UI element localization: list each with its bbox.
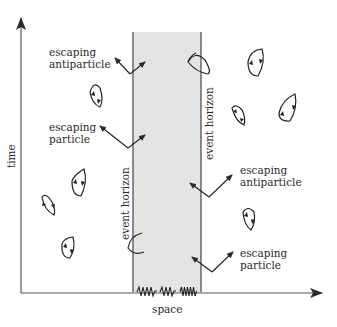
annotation-line1: escaping <box>49 121 96 133</box>
black-hole-region <box>133 32 201 292</box>
annotation-escaping-particle-right: escaping particle <box>240 247 287 271</box>
loop-icon <box>90 85 102 107</box>
annotation-line2: antiparticle <box>49 58 111 70</box>
loop-icon <box>243 209 255 231</box>
annotation-line2: particle <box>240 259 287 271</box>
annotation-line1: escaping <box>240 247 287 259</box>
annotation-escaping-antiparticle-right: escaping antiparticle <box>240 164 302 188</box>
right-event-horizon-label: event horizon <box>203 87 215 160</box>
loop-icon <box>62 237 74 258</box>
space-axis-label: space <box>152 303 182 315</box>
time-axis-label: time <box>5 144 17 168</box>
loop-icon <box>232 106 245 125</box>
annotation-line2: antiparticle <box>240 176 302 188</box>
annotation-line2: particle <box>49 133 96 145</box>
left-event-horizon-label: event horizon <box>119 167 131 240</box>
annotation-escaping-particle-left: escaping particle <box>49 121 96 145</box>
annotation-line1: escaping <box>240 164 302 176</box>
annotation-line1: escaping <box>49 46 111 58</box>
annotation-escaping-antiparticle-left: escaping antiparticle <box>49 46 111 70</box>
